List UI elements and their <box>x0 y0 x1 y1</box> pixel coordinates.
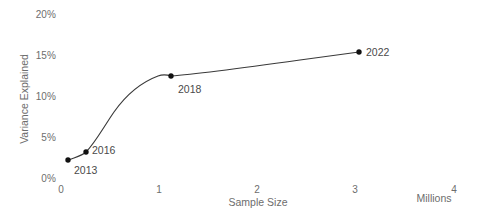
data-point-2018 <box>168 73 173 78</box>
data-label-2013: 2013 <box>74 164 97 176</box>
data-label-2022: 2022 <box>366 46 389 58</box>
variance-explained-chart: Variance Explained 20% 15% 10% 5% 0% 0 1… <box>0 0 481 222</box>
data-point-2016 <box>83 149 88 154</box>
data-point-2013 <box>65 157 70 162</box>
data-label-2016: 2016 <box>92 144 115 156</box>
plot-area <box>0 0 481 222</box>
data-point-2022 <box>356 49 361 54</box>
data-label-2018: 2018 <box>178 83 201 95</box>
